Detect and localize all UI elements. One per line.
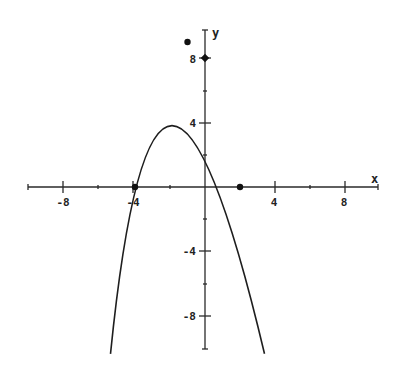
x-tick-label-4: 4 <box>271 196 278 209</box>
parabola-graph: x y -8 -4 4 8 8 4 -4 -8 <box>0 0 394 386</box>
y-tick-label-neg8: -8 <box>183 310 196 323</box>
x-tick-label-8: 8 <box>341 196 348 209</box>
y-intercept-point <box>201 54 209 62</box>
y-tick-label-neg4: -4 <box>183 245 197 258</box>
marked-points <box>132 39 243 190</box>
x-axis-label: x <box>371 172 378 186</box>
x-intercept-point-left <box>132 184 138 190</box>
x-tick-label-neg8: -8 <box>56 196 69 209</box>
x-intercept-point-right <box>237 184 243 190</box>
x-tick-label-neg4: -4 <box>126 196 140 209</box>
y-tick-label-4: 4 <box>189 117 196 130</box>
y-axis-label: y <box>212 26 219 40</box>
vertex-point <box>184 39 190 45</box>
y-tick-label-8: 8 <box>189 53 196 66</box>
